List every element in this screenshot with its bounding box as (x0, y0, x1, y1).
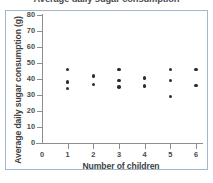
y-tick-label: 80 (21, 11, 35, 19)
y-tick-label: 70 (21, 27, 35, 35)
data-point (117, 85, 121, 89)
y-tick-mark (37, 47, 42, 48)
chart-title: Average daily sugar consumption (0, 0, 213, 5)
data-point (194, 68, 198, 72)
x-tick-mark (68, 144, 69, 149)
x-tick-label: 5 (162, 151, 178, 159)
y-tick-mark (37, 31, 42, 32)
x-tick-mark (93, 144, 94, 149)
x-tick-label: 4 (137, 151, 153, 159)
y-tick-label-wrap: 30 (19, 91, 35, 99)
x-tick-label: 6 (188, 151, 204, 159)
chart-panel-border (5, 10, 208, 170)
y-tick-mark (37, 79, 42, 80)
y-tick-label-wrap: 40 (19, 75, 35, 83)
y-tick-label: 30 (21, 91, 35, 99)
y-tick-label: 40 (21, 75, 35, 83)
x-tick-label: 0 (34, 151, 50, 159)
y-tick-label-wrap: 70 (19, 27, 35, 35)
data-point (194, 84, 198, 88)
x-tick-label: 2 (85, 151, 101, 159)
x-tick-mark (145, 144, 146, 149)
y-tick-mark (37, 63, 42, 64)
y-tick-label: 20 (21, 107, 35, 115)
y-tick-mark (37, 143, 42, 144)
y-axis-line (42, 14, 43, 144)
y-tick-mark (37, 15, 42, 16)
x-tick-label: 3 (111, 151, 127, 159)
y-tick-mark (37, 111, 42, 112)
y-tick-label-wrap: 80 (19, 11, 35, 19)
x-tick-mark (196, 144, 197, 149)
scatter-plot-figure: Average daily sugar consumption Average … (0, 0, 213, 183)
x-tick-mark (119, 144, 120, 149)
x-tick-mark (170, 144, 171, 149)
y-tick-label: 10 (21, 123, 35, 131)
y-tick-label-wrap: 20 (19, 107, 35, 115)
data-point (92, 74, 96, 78)
x-axis-title: Number of children (36, 161, 206, 171)
y-tick-label: 50 (21, 59, 35, 67)
y-tick-mark (37, 127, 42, 128)
y-tick-label: 0 (21, 139, 35, 147)
x-tick-label: 1 (60, 151, 76, 159)
y-tick-label: 60 (21, 43, 35, 51)
data-point (117, 68, 121, 72)
y-tick-label-wrap: 50 (19, 59, 35, 67)
y-tick-mark (37, 95, 42, 96)
y-tick-label-wrap: 0 (19, 139, 35, 147)
y-tick-label-wrap: 10 (19, 123, 35, 131)
y-tick-label-wrap: 60 (19, 43, 35, 51)
